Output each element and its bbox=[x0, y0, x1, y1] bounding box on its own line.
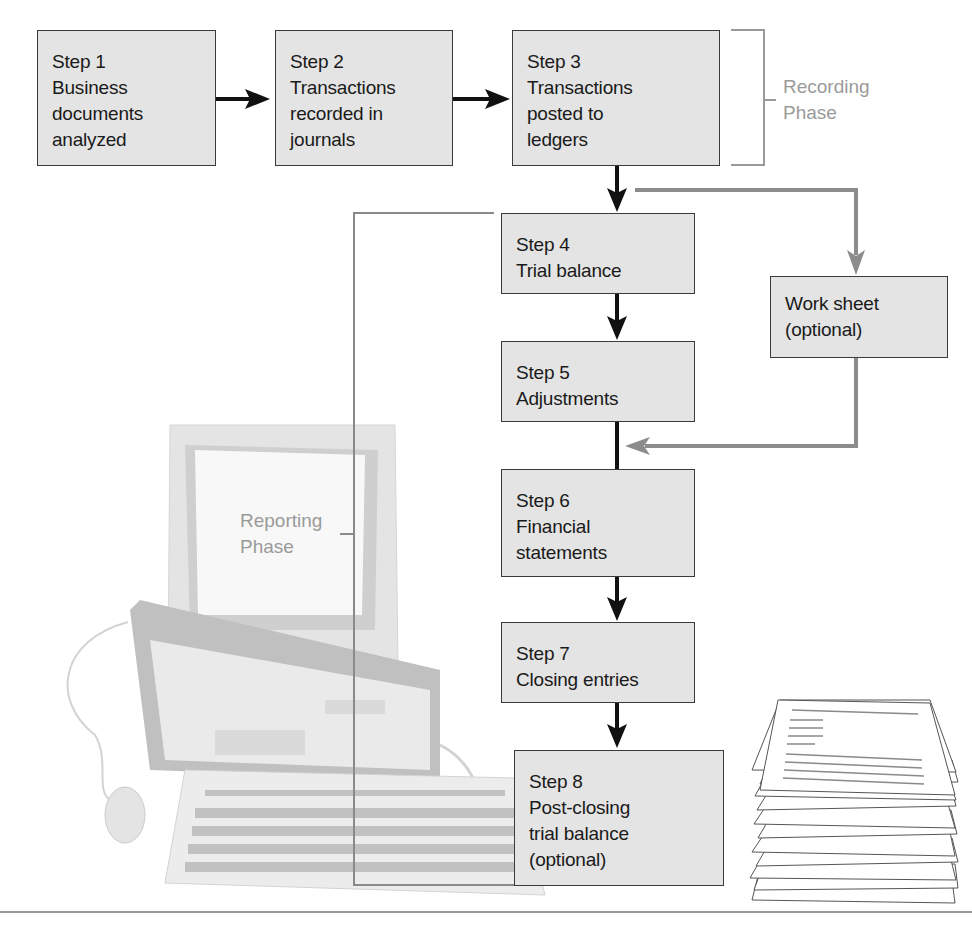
step-4-line: Trial balance bbox=[516, 258, 694, 284]
step-7-label: Step 7 bbox=[516, 641, 694, 667]
step-8-line: trial balance bbox=[529, 821, 723, 847]
step-8-label: Step 8 bbox=[529, 769, 723, 795]
step-1-line: Business bbox=[52, 75, 215, 101]
step-8-line: (optional) bbox=[529, 847, 723, 873]
step-5-line: Adjustments bbox=[516, 386, 694, 412]
step-7-line: Closing entries bbox=[516, 667, 694, 693]
step-8-line: Post-closing bbox=[529, 795, 723, 821]
worksheet-line: (optional) bbox=[785, 317, 947, 343]
step-4-label: Step 4 bbox=[516, 232, 694, 258]
step-2-box: Step 2 Transactions recorded in journals bbox=[275, 30, 453, 166]
step-3-box: Step 3 Transactions posted to ledgers bbox=[512, 30, 720, 166]
step-6-box: Step 6 Financial statements bbox=[501, 469, 695, 577]
step-3-line: ledgers bbox=[527, 127, 719, 153]
step-2-line: Transactions bbox=[290, 75, 452, 101]
reporting-phase-label: Reporting Phase bbox=[240, 508, 322, 560]
step-1-line: analyzed bbox=[52, 127, 215, 153]
step-4-box: Step 4 Trial balance bbox=[501, 213, 695, 294]
worksheet-box: Work sheet (optional) bbox=[770, 276, 948, 358]
recording-phase-label: Recording Phase bbox=[783, 74, 870, 126]
phase-label-line: Recording bbox=[783, 74, 870, 100]
phase-label-line: Phase bbox=[783, 100, 870, 126]
computer-illustration bbox=[68, 425, 545, 895]
paper-stack-illustration bbox=[750, 700, 958, 903]
step-5-label: Step 5 bbox=[516, 360, 694, 386]
recording-phase-bracket bbox=[731, 30, 776, 165]
step-3-line: posted to bbox=[527, 101, 719, 127]
phase-label-line: Phase bbox=[240, 534, 322, 560]
bottom-rule bbox=[0, 911, 972, 913]
step-1-line: documents bbox=[52, 101, 215, 127]
step-2-line: journals bbox=[290, 127, 452, 153]
phase-label-line: Reporting bbox=[240, 508, 322, 534]
step-3-line: Transactions bbox=[527, 75, 719, 101]
step-2-line: recorded in bbox=[290, 101, 452, 127]
step-6-line: statements bbox=[516, 540, 694, 566]
step-2-label: Step 2 bbox=[290, 49, 452, 75]
accounting-cycle-diagram: Step 1 Business documents analyzed Step … bbox=[0, 0, 972, 925]
step-1-label: Step 1 bbox=[52, 49, 215, 75]
step-6-line: Financial bbox=[516, 514, 694, 540]
step-1-box: Step 1 Business documents analyzed bbox=[37, 30, 216, 166]
step-5-box: Step 5 Adjustments bbox=[501, 341, 695, 422]
step-7-box: Step 7 Closing entries bbox=[501, 622, 695, 703]
worksheet-line: Work sheet bbox=[785, 291, 947, 317]
step-8-box: Step 8 Post-closing trial balance (optio… bbox=[514, 750, 724, 886]
step-3-label: Step 3 bbox=[527, 49, 719, 75]
step-6-label: Step 6 bbox=[516, 488, 694, 514]
